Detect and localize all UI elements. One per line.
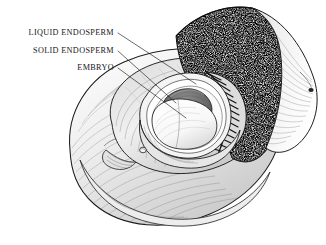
label-embryo: EMBRYO [0, 64, 114, 72]
coconut-diagram-figure: LIQUID ENDOSPERM SOLID ENDOSPERM EMBRYO [0, 0, 326, 245]
label-liquid-endosperm: LIQUID ENDOSPERM [0, 29, 114, 37]
label-solid-endosperm: SOLID ENDOSPERM [0, 47, 114, 55]
